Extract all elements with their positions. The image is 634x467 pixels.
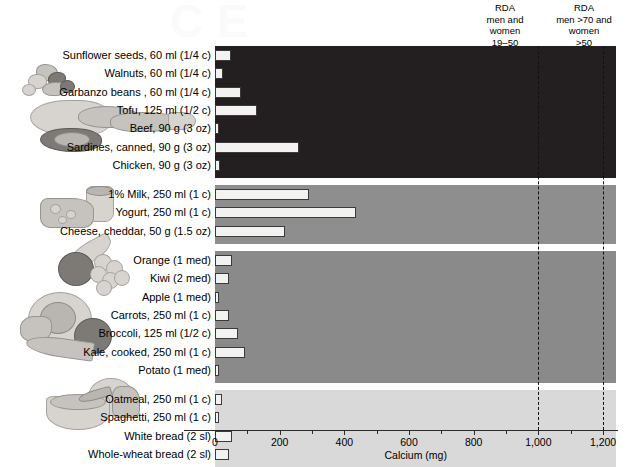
x-tick bbox=[538, 430, 539, 435]
bar bbox=[215, 87, 241, 98]
category-label: Apple (1 med) bbox=[5, 291, 215, 303]
x-tick-label: 1,200 bbox=[590, 436, 616, 448]
category-label: Walnuts, 60 ml (1/4 c) bbox=[5, 67, 215, 79]
group-band-fruits-and-vegetables bbox=[215, 251, 616, 383]
bar bbox=[215, 68, 223, 79]
category-label: Spaghetti, 250 ml (1 c) bbox=[5, 411, 215, 423]
x-tick-label: 0 bbox=[212, 436, 218, 448]
x-tick bbox=[344, 430, 345, 435]
x-tick bbox=[474, 430, 475, 435]
bar bbox=[215, 273, 229, 284]
x-minor-tick bbox=[312, 430, 313, 434]
rda-annotation-over-70: RDA men >70 and women >50 bbox=[540, 2, 628, 48]
x-axis-title: Calcium (mg) bbox=[385, 449, 447, 461]
x-minor-tick bbox=[441, 430, 442, 434]
category-label: Oatmeal, 250 ml (1 c) bbox=[5, 393, 215, 405]
bar bbox=[215, 160, 220, 171]
bar bbox=[215, 412, 219, 423]
bar bbox=[215, 123, 219, 134]
bar bbox=[215, 50, 231, 61]
bar bbox=[215, 365, 219, 376]
bar bbox=[215, 142, 299, 153]
category-label: Cheese, cheddar, 50 g (1.5 oz) bbox=[5, 225, 215, 237]
bar bbox=[215, 394, 222, 405]
background-watermark: CE bbox=[170, 0, 262, 48]
category-label-column: Sunflower seeds, 60 ml (1/4 c)Walnuts, 6… bbox=[0, 46, 215, 430]
bar bbox=[215, 347, 245, 358]
x-tick-label: 400 bbox=[336, 436, 354, 448]
x-tick-label: 800 bbox=[465, 436, 483, 448]
category-label: Sunflower seeds, 60 ml (1/4 c) bbox=[5, 49, 215, 61]
rda-annotation-19-50: RDA men and women 19–50 bbox=[472, 2, 538, 48]
category-label: Beef, 90 g (3 oz) bbox=[5, 122, 215, 134]
category-label: 1% Milk, 250 ml (1 c) bbox=[5, 188, 215, 200]
category-label: Kale, cooked, 250 ml (1 c) bbox=[5, 346, 215, 358]
category-label: Potato (1 med) bbox=[5, 364, 215, 376]
x-minor-tick bbox=[571, 430, 572, 434]
bar bbox=[215, 292, 219, 303]
x-tick-label: 1,000 bbox=[525, 436, 551, 448]
x-minor-tick bbox=[377, 430, 378, 434]
bar bbox=[215, 310, 229, 321]
x-tick bbox=[215, 430, 216, 435]
category-label: Sardines, canned, 90 g (3 oz) bbox=[5, 141, 215, 153]
bar bbox=[215, 226, 285, 237]
rda-over-70-line bbox=[603, 46, 604, 430]
category-label: Broccoli, 125 ml (1/2 c) bbox=[5, 327, 215, 339]
chart-plot-area bbox=[215, 46, 616, 430]
category-label: Chicken, 90 g (3 oz) bbox=[5, 159, 215, 171]
x-tick bbox=[280, 430, 281, 435]
category-label: Kiwi (2 med) bbox=[5, 272, 215, 284]
category-label: Yogurt, 250 ml (1 c) bbox=[5, 206, 215, 218]
x-minor-tick bbox=[247, 430, 248, 434]
bar bbox=[215, 105, 257, 116]
bar bbox=[215, 189, 309, 200]
x-axis-line bbox=[184, 430, 618, 431]
category-label: White bread (2 sl) bbox=[5, 430, 215, 442]
x-tick bbox=[409, 430, 410, 435]
category-label: Tofu, 125 ml (1/2 c) bbox=[5, 104, 215, 116]
category-label: Whole-wheat bread (2 sl) bbox=[5, 448, 215, 460]
x-tick bbox=[603, 430, 604, 435]
x-tick-label: 200 bbox=[271, 436, 289, 448]
group-band-protein-foods bbox=[215, 46, 616, 178]
bar bbox=[215, 328, 238, 339]
rda-19-50-line bbox=[538, 46, 539, 430]
category-label: Orange (1 med) bbox=[5, 254, 215, 266]
bar bbox=[215, 255, 232, 266]
bar bbox=[215, 449, 229, 460]
x-minor-tick bbox=[506, 430, 507, 434]
category-label: Garbanzo beans , 60 ml (1/4 c) bbox=[5, 86, 215, 98]
bar bbox=[215, 207, 356, 218]
x-tick-label: 600 bbox=[400, 436, 418, 448]
category-label: Carrots, 250 ml (1 c) bbox=[5, 309, 215, 321]
